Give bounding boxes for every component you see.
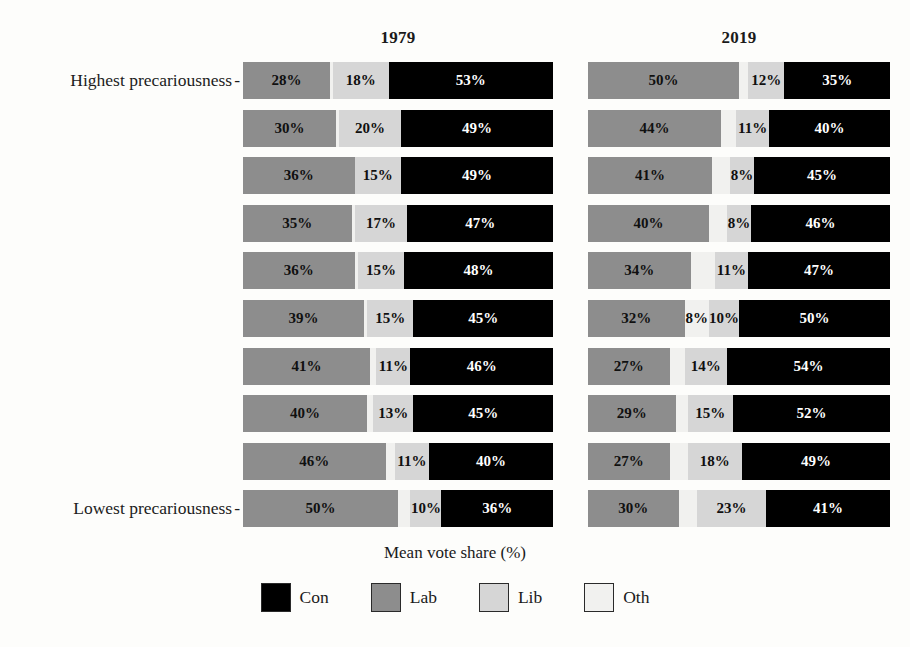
bar-segment-lab: 29%: [588, 395, 676, 432]
y-axis-tick-dash-top: -: [232, 70, 240, 91]
bar-segment-label: 45%: [468, 310, 498, 327]
bar-segment-label: 18%: [700, 453, 730, 470]
bar-row: 29%15%52%: [588, 395, 890, 432]
bar-segment-con: 45%: [754, 157, 890, 194]
bar-segment-lib: 15%: [355, 157, 402, 194]
bar-segment-label: 28%: [271, 72, 301, 89]
bar-segment-lib: 11%: [715, 252, 748, 289]
bar-segment-label: 11%: [397, 453, 426, 470]
bar-segment-label: 53%: [456, 72, 486, 89]
bar-segment-con: 49%: [742, 443, 890, 480]
bar-segment-label: 52%: [796, 405, 826, 422]
bar-segment-lib: 15%: [367, 300, 414, 337]
bar-segment-lib: 14%: [685, 348, 727, 385]
bar-segment-con: 45%: [413, 395, 553, 432]
bar-row: 32%8%10%50%: [588, 300, 890, 337]
bar-segment-label: 41%: [292, 358, 322, 375]
bar-segment-label: 11%: [738, 120, 767, 137]
bar-row: 50%12%35%: [588, 62, 890, 99]
bar-segment-con: 53%: [389, 62, 553, 99]
bar-segment-con: 40%: [769, 110, 890, 147]
y-axis-label-highest-text: Highest precariousness: [70, 70, 232, 90]
bar-segment-con: 48%: [404, 252, 553, 289]
bar-segment-oth: [679, 490, 697, 527]
bar-segment-label: 49%: [462, 167, 492, 184]
bar-segment-con: 41%: [766, 490, 890, 527]
bar-segment-label: 17%: [366, 215, 396, 232]
bar-row: 30%23%41%: [588, 490, 890, 527]
bar-segment-oth: [670, 443, 688, 480]
bar-segment-lab: 44%: [588, 110, 721, 147]
bar-segment-label: 40%: [290, 405, 320, 422]
bar-segment-label: 36%: [284, 167, 314, 184]
bar-segment-con: 50%: [739, 300, 890, 337]
bar-segment-label: 15%: [366, 262, 396, 279]
bar-segment-oth: [721, 110, 736, 147]
legend-item-oth[interactable]: Oth: [584, 583, 649, 612]
y-axis-label-lowest: Lowest precariousness-: [73, 498, 240, 519]
bar-segment-label: 39%: [288, 310, 318, 327]
chart-legend: ConLabLibOth: [0, 583, 910, 612]
stacked-bar-chart: 1979 2019 Highest precariousness- Lowest…: [0, 0, 910, 647]
bar-segment-lib: 18%: [688, 443, 742, 480]
bar-row: 40%13%45%: [243, 395, 553, 432]
bar-row: 36%15%48%: [243, 252, 553, 289]
y-axis-label-lowest-text: Lowest precariousness: [73, 498, 232, 518]
legend-label: Oth: [623, 587, 649, 608]
bar-segment-label: 23%: [716, 500, 746, 517]
bar-segment-lab: 36%: [243, 157, 355, 194]
bar-segment-con: 45%: [413, 300, 553, 337]
bar-segment-con: 47%: [407, 205, 553, 242]
bar-segment-label: 50%: [649, 72, 679, 89]
bar-segment-lab: 34%: [588, 252, 691, 289]
bar-segment-lab: 40%: [588, 205, 709, 242]
bar-row: 39%15%45%: [243, 300, 553, 337]
bar-segment-con: 40%: [429, 443, 553, 480]
bar-segment-label: 10%: [411, 500, 441, 517]
bar-row: 46%11%40%: [243, 443, 553, 480]
bar-segment-lib: 10%: [709, 300, 739, 337]
bar-segment-lab: 39%: [243, 300, 364, 337]
bar-segment-label: 47%: [465, 215, 495, 232]
bar-segment-lab: 50%: [243, 490, 398, 527]
legend-swatch-lib-icon: [479, 583, 509, 612]
bar-segment-label: 49%: [801, 453, 831, 470]
bar-segment-label: 12%: [751, 72, 781, 89]
bar-segment-label: 40%: [815, 120, 845, 137]
legend-item-con[interactable]: Con: [261, 583, 329, 612]
bar-segment-lib: 20%: [339, 110, 401, 147]
bar-segment-label: 30%: [275, 120, 305, 137]
bar-segment-label: 10%: [709, 310, 739, 327]
bar-segment-lab: 28%: [243, 62, 330, 99]
bar-segment-label: 36%: [284, 262, 314, 279]
bar-segment-label: 27%: [614, 453, 644, 470]
bar-segment-label: 50%: [306, 500, 336, 517]
bar-segment-con: 35%: [784, 62, 890, 99]
bar-segment-lab: 41%: [588, 157, 712, 194]
bar-segment-con: 49%: [401, 110, 553, 147]
y-axis-label-highest: Highest precariousness-: [70, 70, 240, 91]
bar-segment-label: 46%: [299, 453, 329, 470]
bar-segment-lib: 11%: [395, 443, 429, 480]
bar-segment-lib: 23%: [697, 490, 766, 527]
bar-segment-label: 15%: [695, 405, 725, 422]
bar-segment-con: 46%: [410, 348, 553, 385]
bar-segment-label: 27%: [614, 358, 644, 375]
bar-row: 27%14%54%: [588, 348, 890, 385]
bar-segment-label: 11%: [379, 358, 408, 375]
legend-swatch-con-icon: [261, 583, 291, 612]
legend-item-lab[interactable]: Lab: [371, 583, 437, 612]
bar-segment-label: 35%: [822, 72, 852, 89]
bar-row: 27%18%49%: [588, 443, 890, 480]
bar-segment-lab: 32%: [588, 300, 685, 337]
bar-segment-label: 20%: [355, 120, 385, 137]
bar-segment-label: 8%: [731, 167, 754, 184]
bar-segment-lab: 30%: [243, 110, 336, 147]
panel-title-2019: 2019: [588, 28, 890, 48]
bar-segment-oth: [739, 62, 748, 99]
bar-segment-label: 45%: [807, 167, 837, 184]
bar-segment-lib: 8%: [727, 205, 751, 242]
bar-segment-label: 41%: [635, 167, 665, 184]
legend-item-lib[interactable]: Lib: [479, 583, 542, 612]
bar-row: 40%8%46%: [588, 205, 890, 242]
